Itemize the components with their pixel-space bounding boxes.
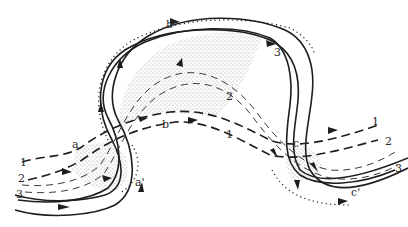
label-1-mid: 1 <box>226 128 233 141</box>
label-a-prime: a' <box>135 176 145 189</box>
label-b-prime: b' <box>166 18 176 31</box>
arrow-icon <box>328 127 338 134</box>
label-2-mid: 2 <box>226 90 233 103</box>
label-a: a <box>72 138 79 151</box>
label-3-right: 3 <box>395 162 402 175</box>
arrow-icon <box>62 168 72 175</box>
label-b: b <box>162 118 169 131</box>
label-1-left: 1 <box>20 156 27 169</box>
label-3-top: 3 <box>274 46 281 59</box>
arrow-icon <box>338 198 348 205</box>
label-c: c <box>293 137 299 150</box>
label-c-prime: c' <box>351 186 360 199</box>
point-bar-upper <box>118 32 262 130</box>
label-3-left: 3 <box>16 188 23 201</box>
arrow-icon <box>188 117 198 124</box>
arrow-icon <box>270 148 278 158</box>
label-2-right: 2 <box>385 135 392 148</box>
meander-diagram: 1 2 3 1 2 3 2 1 3 a a' b b' c c' <box>0 0 408 227</box>
point-bar-lower-left <box>72 143 128 192</box>
label-2-left: 2 <box>18 172 25 185</box>
arrow-icon <box>294 180 300 190</box>
arrow-icon <box>58 204 70 210</box>
label-1-right: 1 <box>372 115 379 128</box>
